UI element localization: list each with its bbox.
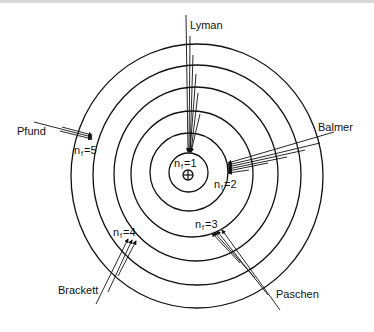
svg-text:=4: =4 — [123, 226, 136, 238]
svg-text:f: f — [81, 150, 83, 157]
label-nf1: n f =1 — [174, 157, 197, 170]
label-nf4: n f =4 — [113, 226, 136, 239]
label-pfund: Pfund — [17, 125, 46, 137]
svg-text:n: n — [74, 144, 80, 156]
circled-plus-icon — [183, 170, 193, 180]
svg-text:=3: =3 — [205, 218, 218, 230]
label-nf3: n f =3 — [195, 218, 218, 231]
label-lyman: Lyman — [190, 19, 223, 31]
label-nf2: n f =2 — [214, 178, 237, 191]
svg-text:n: n — [214, 178, 220, 190]
svg-text:n: n — [195, 218, 201, 230]
svg-text:f: f — [181, 163, 183, 170]
label-brackett: Brackett — [58, 284, 98, 296]
svg-text:f: f — [120, 232, 122, 239]
label-balmer: Balmer — [318, 121, 353, 133]
svg-text:f: f — [221, 184, 223, 191]
svg-text:=1: =1 — [184, 157, 197, 169]
svg-text:n: n — [113, 226, 119, 238]
label-paschen: Paschen — [276, 288, 319, 300]
label-nf5: n f =5 — [74, 144, 97, 157]
orbit-n6 — [71, 44, 323, 308]
svg-text:f: f — [202, 224, 204, 231]
svg-text:=5: =5 — [84, 144, 97, 156]
lyman-series-arrows — [186, 15, 200, 152]
svg-text:=2: =2 — [224, 178, 237, 190]
brackett-series-arrows — [96, 239, 136, 304]
bohr-diagram: Lyman Balmer Paschen Brackett Pfund n f … — [0, 0, 374, 332]
orbits — [71, 44, 323, 308]
svg-text:n: n — [174, 157, 180, 169]
